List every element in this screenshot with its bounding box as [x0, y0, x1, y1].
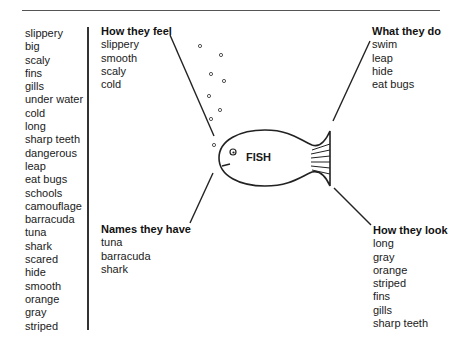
group-item: hide [372, 65, 441, 78]
group-item: slippery [101, 38, 172, 51]
connector-feel [170, 35, 214, 136]
group-item: gray [373, 251, 448, 264]
group-item: sharp teeth [373, 317, 448, 330]
group-names-they-have: Names they have tuna barracuda shark [101, 223, 191, 276]
group-how-they-feel: How they feel slippery smooth scaly cold [101, 25, 172, 91]
group-item: striped [373, 277, 448, 290]
connector-do [333, 41, 370, 121]
connector-names [190, 173, 213, 223]
group-item: smooth [101, 52, 172, 65]
group-title: Names they have [101, 223, 191, 236]
group-item: cold [101, 78, 172, 91]
group-title: How they look [373, 224, 448, 237]
group-item: leap [372, 52, 441, 65]
center-label: FISH [246, 151, 271, 163]
group-item: shark [101, 263, 191, 276]
group-item: eat bugs [372, 78, 441, 91]
group-item: swim [372, 38, 441, 51]
group-title: How they feel [101, 25, 172, 38]
group-item: barracuda [101, 250, 191, 263]
group-item: fins [373, 290, 448, 303]
group-item: long [373, 237, 448, 250]
group-how-they-look: How they look long gray orange striped f… [373, 224, 448, 330]
group-title: What they do [372, 25, 441, 38]
group-item: scaly [101, 65, 172, 78]
group-item: orange [373, 264, 448, 277]
connector-look [334, 188, 371, 225]
group-item: gills [373, 304, 448, 317]
group-what-they-do: What they do swim leap hide eat bugs [372, 25, 441, 91]
group-item: tuna [101, 236, 191, 249]
